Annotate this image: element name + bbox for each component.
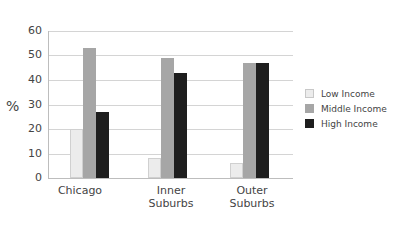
swatch-middle-income: [305, 104, 314, 113]
bar: [83, 48, 96, 178]
bar: [243, 63, 256, 178]
bar: [174, 73, 187, 178]
bar: [230, 163, 243, 178]
legend-item-low-income: Low Income: [305, 86, 387, 101]
bar: [96, 112, 109, 178]
y-tick-label: 30: [22, 99, 42, 111]
y-tick-label: 40: [22, 74, 42, 86]
x-label-outer-suburbs: OuterSuburbs: [217, 184, 287, 210]
legend-item-high-income: High Income: [305, 116, 387, 131]
swatch-low-income: [305, 89, 314, 98]
y-tick-label: 0: [22, 172, 42, 184]
legend: Low Income Middle Income High Income: [305, 86, 387, 131]
bar: [148, 158, 161, 178]
legend-item-middle-income: Middle Income: [305, 101, 387, 116]
x-label-chicago: Chicago: [45, 184, 115, 197]
y-axis-label: %: [6, 98, 19, 114]
swatch-high-income: [305, 119, 314, 128]
y-tick-label: 50: [22, 49, 42, 61]
x-label-inner-suburbs: InnerSuburbs: [136, 184, 206, 210]
gridline: [48, 31, 293, 32]
y-tick-label: 20: [22, 123, 42, 135]
bar: [161, 58, 174, 178]
gridline: [48, 178, 293, 179]
y-tick-label: 10: [22, 148, 42, 160]
bar: [70, 129, 83, 178]
y-tick-label: 60: [22, 25, 42, 37]
y-axis-line: [48, 31, 49, 179]
bar: [256, 63, 269, 178]
